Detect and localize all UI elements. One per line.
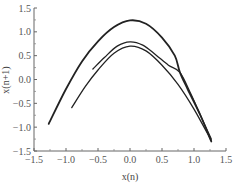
y-tick-label: 0.5: [19, 50, 32, 61]
x-tick-label: 0.0: [124, 154, 137, 165]
y-tick-label: −1.0: [13, 122, 31, 133]
y-tick-label: 1.5: [19, 3, 32, 14]
y-tick-label: −1.5: [13, 146, 31, 157]
data-series: [49, 20, 212, 141]
y-tick-label: 1.0: [19, 26, 32, 37]
series-outer-branch: [49, 20, 212, 141]
y-tick-label: −0.5: [13, 98, 31, 109]
x-axis-title: x(n): [122, 171, 139, 183]
axes: −1.5−1.0−0.50.00.51.01.51.51.00.50.0−0.5…: [13, 3, 232, 166]
x-tick-label: −0.5: [89, 154, 107, 165]
x-tick-label: 1.0: [188, 154, 201, 165]
x-tick-label: −1.0: [57, 154, 75, 165]
x-tick-label: 1.5: [220, 154, 233, 165]
x-tick-label: 0.5: [156, 154, 169, 165]
y-axis-title: x(n+1): [0, 66, 12, 93]
chart: −1.5−1.0−0.50.00.51.01.51.51.00.50.0−0.5…: [0, 0, 234, 188]
y-tick-label: 0.0: [19, 74, 32, 85]
